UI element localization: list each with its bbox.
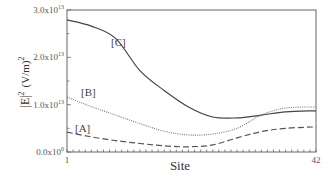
x-axis-title: Site <box>170 158 190 173</box>
x-tick-label-last: 42 <box>312 155 321 165</box>
y-axis-title: |E|2(V/m)2 <box>17 56 32 107</box>
series-b-label: [B] <box>81 86 96 98</box>
line-chart: [C] [B] [A] 3.0x1013 2.0x1013 1.0x1013 0… <box>0 0 327 180</box>
series-c-line <box>67 20 316 118</box>
y-tick-label-3: 3.0x1013 <box>33 4 64 15</box>
y-tick-label-0: 0.0x100 <box>36 146 64 157</box>
y-axis-ticks <box>67 10 71 152</box>
x-tick-label-first: 1 <box>65 155 70 165</box>
series-c-label: [C] <box>111 36 126 48</box>
series-b-line <box>67 97 316 135</box>
series-a-label: [A] <box>75 122 90 134</box>
series-a-line <box>67 127 316 147</box>
y-tick-label-2: 2.0x1013 <box>33 51 64 62</box>
y-tick-label-1: 1.0x1013 <box>33 99 64 110</box>
svg-text:|E|2(V/m)2: |E|2(V/m)2 <box>17 56 32 107</box>
